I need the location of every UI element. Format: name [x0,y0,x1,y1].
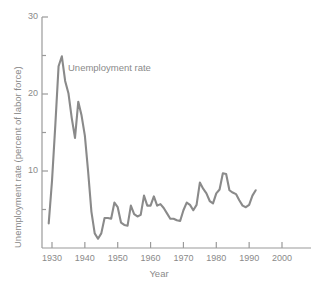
x-axis-ticks [52,242,282,248]
x-axis-tick-label: 1960 [135,253,167,263]
x-axis-tick-label: 1950 [102,253,134,263]
y-axis-title: Unemployment rate (percent of labor forc… [12,66,23,248]
x-axis-title: Year [0,268,318,279]
series-line-unemployment-rate [49,56,256,238]
x-axis-tick-label: 1990 [233,253,265,263]
series-annotation-label: Unemployment rate [68,62,151,73]
x-axis-tick-label: 2000 [266,253,298,263]
chart-plot-svg [0,0,318,283]
y-axis-tick-label: 30 [10,11,38,21]
x-axis-tick-label: 1970 [167,253,199,263]
x-axis-tick-label: 1940 [69,253,101,263]
x-axis-tick-label: 1980 [200,253,232,263]
chart-container: 10203019301940195019601970198019902000 U… [0,0,318,283]
x-axis-tick-label: 1930 [36,253,68,263]
y-axis-ticks [42,17,48,210]
